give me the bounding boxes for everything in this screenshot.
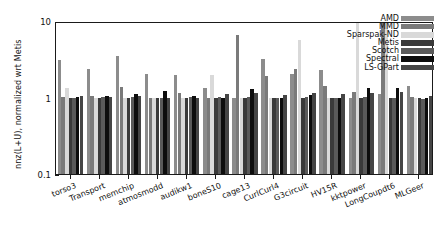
legend-item: Sparspak-ND	[300, 31, 435, 39]
legend-swatch	[401, 48, 434, 53]
x-axis-tick-mark	[331, 175, 332, 179]
y-axis-tick-label: 0.1	[8, 171, 51, 180]
legend-label: LS-GPart	[364, 63, 399, 72]
bar-group	[56, 23, 85, 174]
legend-item: LS-GPart	[300, 64, 435, 72]
bar-group	[260, 23, 289, 174]
legend-swatch	[401, 40, 434, 45]
bar	[341, 94, 344, 174]
x-axis-tick-mark	[186, 175, 187, 179]
x-axis-tick-mark	[360, 175, 361, 179]
bar-group	[172, 23, 201, 174]
bar	[196, 98, 199, 175]
bar-group	[85, 23, 114, 174]
legend-swatch	[401, 32, 434, 37]
x-axis-tick-mark	[389, 175, 390, 179]
y-axis-tick-label: 1	[8, 95, 51, 104]
legend: AMDMMDSparspak-NDMetisScotchSpectralLS-G…	[300, 15, 435, 72]
y-axis-tick-mark	[55, 175, 59, 176]
bar	[225, 94, 228, 174]
bar	[80, 96, 83, 174]
bar	[429, 96, 432, 174]
bar-group	[230, 23, 259, 174]
legend-item: AMD	[300, 15, 435, 23]
legend-swatch	[401, 24, 434, 29]
bar	[400, 92, 403, 174]
x-axis-tick-mark	[418, 175, 419, 179]
x-axis-tick-mark	[70, 175, 71, 179]
bar	[167, 98, 170, 175]
x-axis-tick-mark	[273, 175, 274, 179]
legend-swatch	[401, 16, 434, 21]
bar	[370, 93, 373, 174]
x-axis-tick-mark	[128, 175, 129, 179]
bar	[312, 93, 315, 174]
bar	[138, 96, 141, 174]
bar	[283, 95, 286, 174]
bar-group	[201, 23, 230, 174]
legend-swatch	[401, 56, 434, 61]
legend-swatch	[401, 65, 434, 70]
x-axis-tick-mark	[244, 175, 245, 179]
legend-item: Metis	[300, 39, 435, 47]
x-axis-tick-mark	[302, 175, 303, 179]
y-axis-tick-label: 10	[8, 18, 51, 27]
x-axis-tick-mark	[99, 175, 100, 179]
x-axis-tick-mark	[157, 175, 158, 179]
x-axis-tick-mark	[215, 175, 216, 179]
y-axis-label: nnz(L+U), normalized wrt Metis	[14, 39, 23, 169]
bar	[254, 93, 257, 174]
figure: nnz(L+U), normalized wrt Metis 1010.1 to…	[0, 0, 443, 226]
bar	[109, 97, 112, 174]
bar-group	[143, 23, 172, 174]
bar-group	[114, 23, 143, 174]
